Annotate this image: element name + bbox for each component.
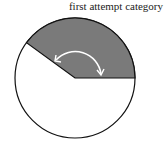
pie-chart — [0, 0, 165, 150]
